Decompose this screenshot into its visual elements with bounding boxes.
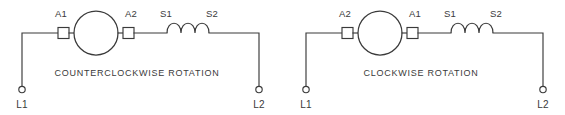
label-armature-right: A2	[125, 8, 137, 19]
label-field-left: S1	[444, 8, 456, 19]
terminal-l2[interactable]	[256, 86, 262, 92]
wire-l1-to-armature	[22, 33, 58, 86]
terminal-l1[interactable]	[19, 86, 25, 92]
label-terminal-l2: L2	[537, 99, 549, 110]
label-armature-left: A1	[55, 8, 67, 19]
wire-field-to-l2	[209, 33, 259, 86]
armature-circle	[74, 11, 118, 55]
wire-field-to-l2	[493, 33, 543, 86]
terminal-l2[interactable]	[540, 86, 546, 92]
rotation-diagrams-figure: A1 A2 S1 S2 L1 L2 COUNTERCLOCKWISE ROTAT…	[0, 0, 565, 115]
label-terminal-l1: L1	[300, 99, 312, 110]
label-field-right: S2	[490, 8, 502, 19]
caption-counterclockwise-rotation: COUNTERCLOCKWISE ROTATION	[55, 68, 220, 78]
diagram-clockwise: A2 A1 S1 S2 L1 L2 CLOCKWISE ROTATION	[300, 8, 549, 110]
series-field-coil	[167, 23, 209, 33]
wire-l1-to-armature	[306, 33, 342, 86]
brush-box-left	[342, 28, 353, 39]
label-armature-left: A2	[339, 8, 351, 19]
terminal-l1[interactable]	[303, 86, 309, 92]
label-armature-right: A1	[409, 8, 421, 19]
brush-box-right	[123, 28, 134, 39]
label-field-right: S2	[206, 8, 218, 19]
caption-clockwise-rotation: CLOCKWISE ROTATION	[363, 68, 478, 78]
brush-box-right	[407, 28, 418, 39]
armature-circle	[358, 11, 402, 55]
diagram-counterclockwise: A1 A2 S1 S2 L1 L2 COUNTERCLOCKWISE ROTAT…	[16, 8, 265, 110]
series-field-coil	[451, 23, 493, 33]
label-terminal-l2: L2	[253, 99, 265, 110]
label-terminal-l1: L1	[16, 99, 28, 110]
label-field-left: S1	[160, 8, 172, 19]
brush-box-left	[58, 28, 69, 39]
